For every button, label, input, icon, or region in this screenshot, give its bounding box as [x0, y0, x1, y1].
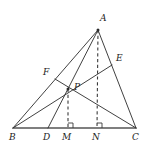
point-label-D: D: [43, 133, 50, 142]
point-label-C: C: [132, 133, 139, 142]
point-label-F: F: [43, 68, 49, 77]
cevian-FC-line: [55, 79, 136, 128]
point-label-E: E: [116, 54, 123, 63]
point-label-M: M: [62, 133, 71, 142]
point-label-N: N: [92, 133, 100, 142]
side-AC-line: [98, 30, 136, 128]
geometry-figure: A E F P B D M N C: [0, 0, 151, 154]
figure-canvas: [0, 0, 151, 154]
vertex-dot-P: [67, 88, 70, 91]
altitude-AN-line: [97, 30, 98, 128]
vertex-dot-A: [97, 29, 100, 32]
point-label-P: P: [74, 83, 80, 92]
point-label-A: A: [100, 14, 107, 23]
point-label-B: B: [9, 133, 16, 142]
